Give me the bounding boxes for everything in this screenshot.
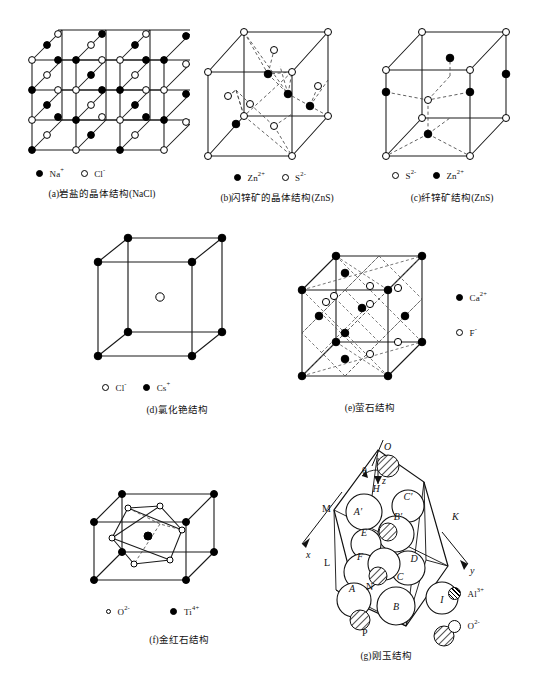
legend-item-s: S2- (282, 170, 307, 183)
angle-label-theta: θ (362, 465, 367, 476)
legend-item-cl: Cl- (81, 166, 106, 179)
open-circle-icon (392, 172, 399, 179)
legend-label-na: Na (49, 169, 60, 179)
panel-b-legend: Zn2+ S2- (234, 170, 306, 183)
panel-e-legend: Ca2+ F- (456, 290, 487, 360)
open-circle-small-icon (106, 609, 111, 614)
legend-label-cl: Cl (94, 169, 103, 179)
legend-charge-cs: + (167, 380, 171, 387)
sphere-label-D: D (409, 553, 418, 564)
panel-d-caption: (d)氯化铯结构 (84, 402, 270, 416)
legend-charge-zn: 2+ (258, 170, 265, 177)
sphere-label-I: I (439, 594, 444, 605)
legend-item-cs: Cs+ (143, 380, 170, 393)
legend-label-ti: Ti (184, 607, 192, 617)
rock-salt-diagram (14, 14, 190, 164)
legend-label-cs: Cs (157, 383, 167, 393)
filled-circle-icon (170, 608, 177, 615)
filled-circle-icon (456, 294, 463, 301)
sphere-label-B: B (393, 601, 399, 612)
sphere-label-A-prime: A′ (353, 506, 363, 517)
panel-g-corundum: A′ C′ B′ E F D A C B I H O M K L N P x y… (296, 440, 544, 668)
legend-charge-ca: 2+ (480, 290, 487, 297)
zinc-blende-diagram (192, 14, 362, 164)
sphere-label-C-prime: C′ (404, 491, 414, 502)
vertex-label-O: O (384, 441, 391, 452)
rutile-diagram (84, 468, 274, 604)
panel-c-caption: (c)纤锌矿结构(ZnS) (366, 190, 538, 204)
panel-g-caption: (g)刚玉结构 (286, 648, 486, 662)
legend-label-zn: Zn (446, 171, 456, 181)
panel-a-legend: Na+ Cl- (36, 166, 105, 179)
panel-e-fluorite: Ca2+ F- (e)萤石结构 (286, 248, 544, 414)
sphere-label-A: A (348, 583, 356, 594)
wurtzite-diagram (366, 14, 538, 164)
axis-label-z: z (381, 475, 386, 486)
filled-circle-icon (234, 174, 241, 181)
legend-charge-zn: 2+ (457, 168, 464, 175)
vertex-label-L: L (324, 557, 330, 568)
legend-charge-cl: - (124, 380, 126, 387)
open-circle-large-icon (448, 620, 461, 633)
legend-item-s: S2- (392, 168, 417, 181)
legend-item-zn: Zn2+ (433, 168, 464, 181)
sphere-label-B-prime: B′ (394, 511, 403, 522)
legend-charge-o: 2- (124, 604, 130, 611)
cesium-chloride-diagram (84, 232, 270, 380)
legend-charge-s: 2- (300, 170, 306, 177)
legend-charge-o: 2- (474, 618, 480, 625)
panel-d-cesium-chloride: Cl- Cs+ (d)氯化铯结构 (84, 232, 270, 412)
axis-label-y: y (469, 565, 475, 576)
vertex-label-P: P (362, 627, 368, 638)
sphere-label-E: E (360, 527, 367, 538)
panel-b-zinc-blende: Zn2+ S2- (b)闪锌矿的晶体结构(ZnS) (192, 14, 362, 200)
legend-item-f: F- (456, 325, 487, 338)
legend-charge-al: 3+ (477, 586, 484, 593)
legend-item-na: Na+ (36, 166, 64, 179)
legend-item-o: O2- (448, 618, 484, 632)
open-circle-icon (456, 329, 463, 336)
corundum-diagram: A′ C′ B′ E F D A C B I H O M K L N P x y… (296, 440, 544, 648)
hatched-circle-icon (448, 587, 461, 600)
legend-label-zn: Zn (247, 173, 257, 183)
legend-charge-f: - (475, 325, 477, 332)
panel-a-rock-salt: Na+ Cl- (a)岩盐的晶体结构(NaCl) (14, 14, 190, 200)
legend-item-o: O2- (106, 604, 130, 617)
panel-b-caption: (b)闪锌矿的晶体结构(ZnS) (192, 190, 362, 204)
panel-e-caption: (e)萤石结构 (280, 400, 460, 414)
legend-item-zn: Zn2+ (234, 170, 265, 183)
vertex-label-N: N (366, 581, 373, 592)
sphere-label-C: C (397, 571, 404, 582)
open-circle-icon (282, 174, 289, 181)
vertex-label-K: K (451, 511, 460, 522)
panel-f-legend: O2- Ti4+ (106, 604, 199, 617)
panel-c-legend: S2- Zn2+ (392, 168, 464, 181)
open-circle-icon (102, 384, 109, 391)
legend-charge-cl: - (103, 166, 105, 173)
legend-item-al: Al3+ (448, 586, 484, 600)
filled-circle-icon (143, 384, 150, 391)
sphere-label-H: H (371, 483, 380, 494)
legend-charge-ti: 4+ (192, 604, 199, 611)
panel-f-caption: (f)金红石结构 (84, 632, 274, 646)
fluorite-diagram (286, 248, 466, 388)
open-circle-icon (81, 170, 88, 177)
legend-label-al: Al (467, 589, 476, 599)
vertex-label-M: M (322, 503, 331, 514)
legend-item-ti: Ti4+ (170, 604, 199, 617)
legend-charge-na: + (60, 166, 64, 173)
legend-charge-s: 2- (411, 168, 417, 175)
panel-f-rutile: O2- Ti4+ (f)金红石结构 (84, 468, 274, 644)
panel-g-legend: Al3+ O2- (448, 586, 484, 655)
panel-a-caption: (a)岩盐的晶体结构(NaCl) (14, 186, 190, 200)
panel-c-wurtzite: S2- Zn2+ (c)纤锌矿结构(ZnS) (366, 14, 538, 200)
legend-item-cl: Cl- (102, 380, 127, 393)
filled-circle-icon (36, 170, 43, 177)
sphere-label-F: F (356, 551, 364, 562)
legend-item-ca: Ca2+ (456, 290, 487, 303)
panel-d-legend: Cl- Cs+ (102, 380, 170, 393)
filled-circle-icon (433, 172, 440, 179)
legend-label-ca: Ca (469, 293, 479, 303)
axis-label-x: x (305, 549, 311, 560)
